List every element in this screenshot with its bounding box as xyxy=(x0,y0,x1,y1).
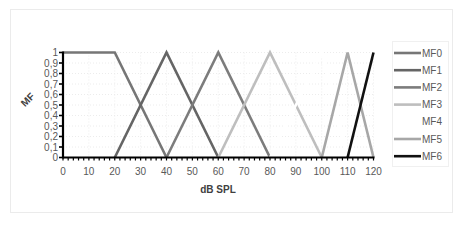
x-tick-label: 50 xyxy=(187,166,199,177)
x-tick-label: 110 xyxy=(340,166,356,177)
x-tick-label: 90 xyxy=(290,166,302,177)
legend-label: MF6 xyxy=(422,151,442,162)
x-tick-label: 80 xyxy=(264,166,276,177)
legend-label: MF2 xyxy=(422,82,442,93)
x-tick-label: 70 xyxy=(239,166,251,177)
x-tick-label: 0 xyxy=(60,166,66,177)
legend-label: MF0 xyxy=(422,48,442,59)
x-tick-label: 10 xyxy=(83,166,95,177)
y-tick-label: 0,4 xyxy=(44,110,58,121)
membership-function-chart: 00,10,20,30,40,50,60,70,80,9101020304050… xyxy=(0,0,458,225)
y-tick-label: 0,7 xyxy=(44,79,58,90)
y-tick-label: 0,6 xyxy=(44,89,58,100)
y-tick-label: 1 xyxy=(52,47,58,58)
legend-label: MF5 xyxy=(422,134,442,145)
legend-label: MF1 xyxy=(422,65,442,76)
chart-border xyxy=(11,10,453,213)
x-tick-label: 120 xyxy=(365,166,382,177)
y-tick-label: 0,1 xyxy=(44,142,58,153)
legend-label: MF3 xyxy=(422,99,442,110)
y-tick-label: 0,2 xyxy=(44,131,58,142)
legend-label: MF4 xyxy=(422,116,442,127)
x-tick-label: 60 xyxy=(213,166,225,177)
x-tick-label: 30 xyxy=(135,166,147,177)
x-axis-title: dB SPL xyxy=(200,184,236,195)
y-tick-label: 0 xyxy=(52,152,58,163)
y-tick-label: 0,3 xyxy=(44,121,58,132)
y-tick-label: 0,5 xyxy=(44,100,58,111)
chart-container: 00,10,20,30,40,50,60,70,80,9101020304050… xyxy=(0,0,458,225)
x-tick-label: 40 xyxy=(161,166,173,177)
y-tick-label: 0,8 xyxy=(44,68,58,79)
x-tick-label: 100 xyxy=(313,166,330,177)
x-tick-label: 20 xyxy=(109,166,121,177)
y-tick-label: 0,9 xyxy=(44,58,58,69)
